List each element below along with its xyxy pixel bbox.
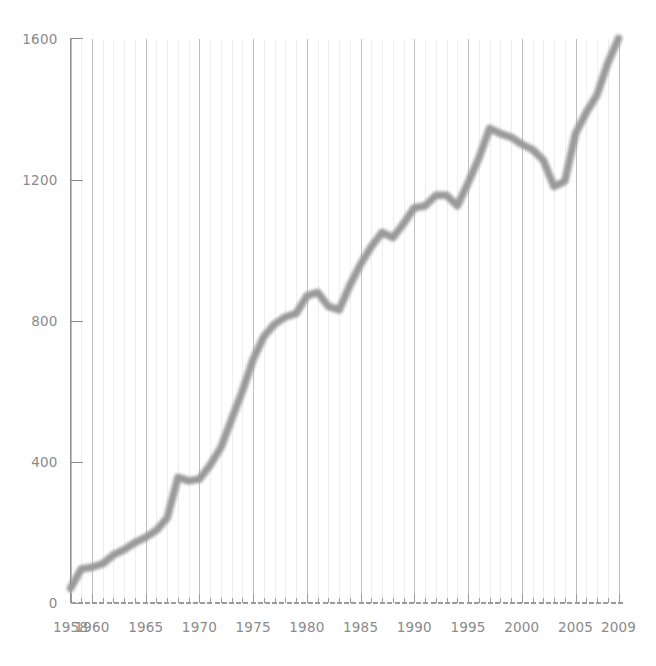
x-axis-tick-label: 2005 [558,619,593,635]
data-series-line [71,39,619,589]
x-axis-tick-label: 1980 [289,619,324,635]
x-axis-tick-label: 1990 [397,619,432,635]
x-axis-tick-label: 2000 [504,619,539,635]
y-axis-tick-label: 1600 [22,31,57,47]
y-axis-tick-labels: 040080012001600 [22,31,57,611]
x-axis-tick-label: 1965 [128,619,163,635]
x-axis-tick-label: 1985 [343,619,378,635]
x-axis [71,594,623,604]
gridlines-major [72,39,620,603]
gridlines-minor [82,39,609,603]
x-axis-tick-label: 1970 [182,619,217,635]
y-axis-tick-label: 0 [49,595,58,611]
chart-canvas: 040080012001600 195819601965197019751980… [0,0,656,666]
x-axis-tick-label: 2009 [601,619,636,635]
line-chart: 040080012001600 195819601965197019751980… [0,0,656,666]
y-axis-tick-label: 1200 [22,172,57,188]
x-axis-tick-labels: 1958196019651970197519801985199019952000… [53,619,636,635]
series-line-value [71,39,619,589]
x-axis-tick-label: 1995 [450,619,485,635]
x-axis-tick-label: 1975 [236,619,271,635]
y-axis-tick-label: 800 [31,313,57,329]
y-axis-spine [71,39,83,603]
x-axis-tick-label: 1960 [74,619,109,635]
y-axis-tick-label: 400 [31,454,57,470]
y-axis [71,39,83,604]
